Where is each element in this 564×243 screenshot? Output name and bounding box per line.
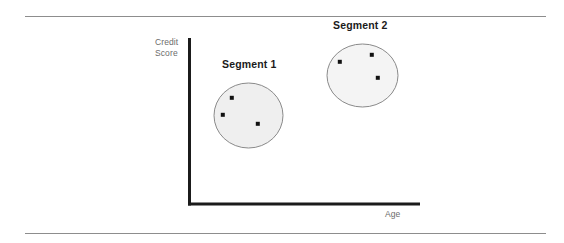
cluster-group-0: [214, 83, 283, 148]
cluster-label-segment-1: Segment 1: [222, 58, 276, 70]
data-point: [221, 113, 225, 117]
diagram-canvas: Credit Score Age Segment 1 Segment 2: [0, 0, 564, 243]
data-point: [370, 53, 374, 57]
data-point: [256, 122, 260, 126]
cluster-label-segment-2: Segment 2: [333, 19, 387, 31]
cluster-ellipse-segment-2: [327, 44, 398, 107]
scatter-plot-svg: [0, 0, 564, 243]
y-axis-label: Credit Score: [155, 37, 178, 58]
cluster-group-1: [327, 44, 398, 107]
data-point: [338, 60, 342, 64]
data-point: [376, 76, 380, 80]
data-point: [230, 96, 234, 100]
x-axis-label: Age: [385, 209, 400, 220]
